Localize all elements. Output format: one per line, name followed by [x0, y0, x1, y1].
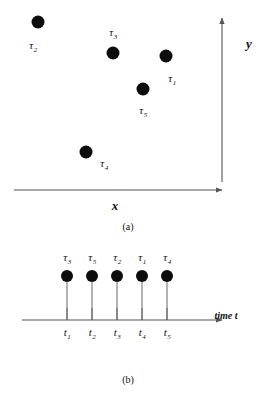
scatter-dot-tau-2	[32, 16, 45, 29]
y-axis-label: y	[246, 37, 252, 50]
timeline-tau-label-3: τ2	[113, 252, 120, 263]
scatter-label-tau-3: τ3	[109, 27, 116, 38]
panel-a-caption: (a)	[122, 222, 133, 232]
timeline-tau-label-4: τ1	[138, 252, 145, 263]
timeline-dot-4	[136, 270, 148, 282]
scatter-dot-tau-4	[80, 146, 93, 159]
time-tick-label-5: t5	[164, 327, 171, 338]
time-tick-label-3: t3	[114, 327, 121, 338]
x-axis-label: x	[112, 199, 119, 212]
time-tick-label-4: t4	[139, 327, 146, 338]
time-tick-label-1: t1	[64, 327, 71, 338]
time-axis-label: time t	[214, 311, 237, 321]
panel-b-timeline: τ3 τ5 τ2 τ1 τ4 t1 t2 t3 t4 t5 time t (b)	[0, 232, 273, 400]
figure-root: τ2 τ3 τ1 τ5 τ4 x y (a)	[0, 0, 273, 400]
panel-b-caption: (b)	[122, 375, 134, 385]
scatter-dot-tau-1	[160, 50, 173, 63]
scatter-label-tau-2: τ2	[29, 40, 36, 51]
timeline-dot-2	[86, 270, 98, 282]
scatter-dot-tau-3	[107, 47, 120, 60]
panel-a-scatter: τ2 τ3 τ1 τ5 τ4 x y (a)	[0, 0, 273, 232]
time-tick-label-2: t2	[89, 327, 96, 338]
timeline-tau-label-2: τ5	[88, 252, 95, 263]
timeline-tau-label-5: τ4	[163, 252, 170, 263]
timeline-tau-label-1: τ3	[63, 252, 70, 263]
timeline-dot-1	[61, 270, 73, 282]
scatter-label-tau-1: τ1	[168, 73, 175, 84]
timeline-dot-5	[161, 270, 173, 282]
panel-a-axes	[0, 0, 273, 232]
scatter-dot-tau-5	[137, 83, 150, 96]
scatter-label-tau-4: τ4	[100, 158, 107, 169]
timeline-dot-3	[111, 270, 123, 282]
scatter-label-tau-5: τ5	[139, 105, 146, 116]
